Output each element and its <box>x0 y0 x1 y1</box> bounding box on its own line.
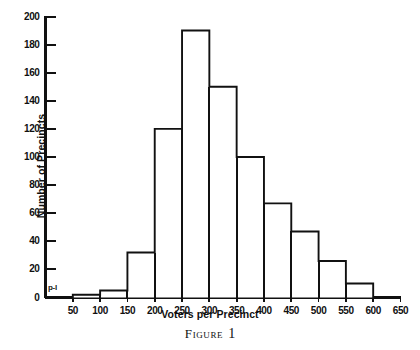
x-axis-title: Voters per Precinct <box>0 308 420 320</box>
y-axis-title: Number of Precincts <box>35 76 47 256</box>
y-axis-tick-label: 60 <box>2 208 40 218</box>
y-axis-tick-label: 180 <box>2 40 40 50</box>
y-axis-tick-label: 20 <box>2 264 40 274</box>
y-axis-tick-label: 120 <box>2 124 40 134</box>
y-axis-tick-label: 160 <box>2 68 40 78</box>
histogram-outline <box>46 31 401 298</box>
y-axis-tick-label: 80 <box>2 180 40 190</box>
y-axis-tick-label: 200 <box>2 12 40 22</box>
figure-caption-word: Figure <box>185 326 223 341</box>
histogram-plot: 020406080100120140160180200 501001502002… <box>0 0 420 320</box>
plot-svg <box>0 0 420 320</box>
y-axis-tick-label: 40 <box>2 236 40 246</box>
y-axis-tick-label: 140 <box>2 96 40 106</box>
origin-annotation-label: p-l <box>48 283 57 292</box>
figure-caption-number: 1 <box>228 326 235 341</box>
histogram-bars-group <box>46 31 401 298</box>
y-axis-tick-label: 0 <box>2 293 40 303</box>
figure-container: 020406080100120140160180200 501001502002… <box>0 0 420 350</box>
y-axis-tick-label: 100 <box>2 152 40 162</box>
figure-caption: Figure1 <box>0 326 420 342</box>
